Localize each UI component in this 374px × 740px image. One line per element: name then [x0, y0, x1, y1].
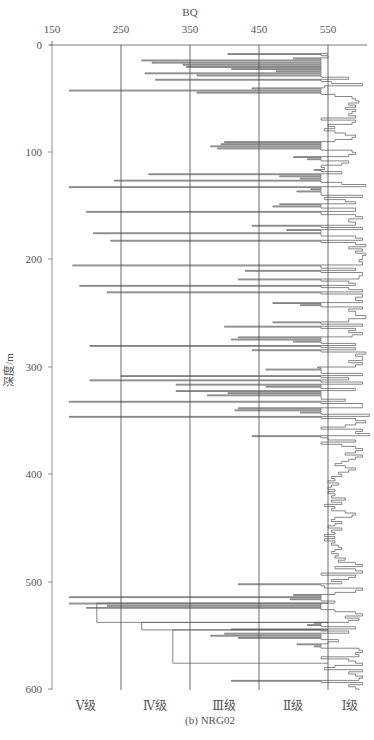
y-tick-200: 200: [26, 253, 43, 265]
class-labels: Ⅴ级 Ⅳ级 Ⅲ级 Ⅱ级 Ⅰ级: [75, 699, 359, 713]
y-axis-title: 深度/m: [2, 353, 15, 387]
class-label-2: Ⅱ级: [283, 699, 303, 713]
bq-step-segment: [173, 630, 328, 663]
y-tick-marks: [48, 45, 52, 689]
x-tick-labels: 150 250 350 450 550: [44, 23, 337, 35]
y-tick-400: 400: [26, 468, 43, 480]
bq-profile-series: [69, 54, 369, 690]
y-tick-labels: 0 100 200 300 400 500 600: [26, 39, 43, 695]
class-label-3: Ⅲ级: [212, 699, 236, 713]
y-tick-0: 0: [37, 39, 43, 51]
bq-depth-profile-chart: BQ 150 250 350 450 550 0 100 200 300 400…: [0, 0, 374, 740]
y-tick-100: 100: [26, 146, 43, 158]
figure-caption: (b) NRG02: [185, 714, 235, 727]
class-label-1: Ⅰ级: [342, 699, 359, 713]
x-tick-350: 350: [182, 23, 199, 35]
x-tick-250: 250: [113, 23, 130, 35]
class-label-5: Ⅴ级: [75, 699, 97, 713]
y-tick-600: 600: [26, 683, 43, 695]
x-tick-450: 450: [251, 23, 268, 35]
x-tick-150: 150: [44, 23, 61, 35]
class-label-4: Ⅳ级: [143, 699, 167, 713]
y-tick-500: 500: [26, 576, 43, 588]
bq-profile-line: [69, 54, 369, 690]
y-tick-300: 300: [26, 361, 43, 373]
x-axis-title: BQ: [182, 6, 197, 18]
x-tick-550: 550: [320, 23, 337, 35]
